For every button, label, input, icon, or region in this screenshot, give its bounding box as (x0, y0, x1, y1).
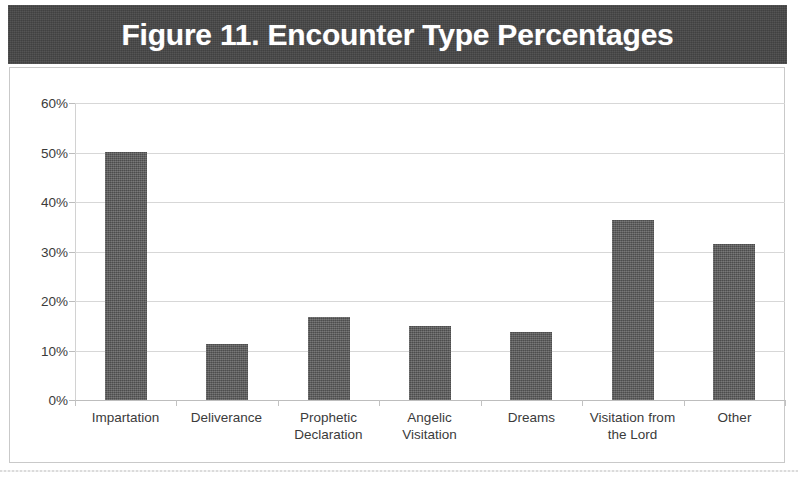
x-axis-tick-label: Impartation (75, 409, 176, 426)
x-axis-tick-label: AngelicVisitation (379, 409, 480, 443)
scan-edge (0, 470, 798, 472)
x-axis-label-line: Other (684, 409, 785, 426)
x-axis-label-line: Visitation from (582, 409, 683, 426)
x-axis-label-line: Impartation (75, 409, 176, 426)
x-axis-label-line: Prophetic (278, 409, 379, 426)
x-axis-tick-label: Dreams (481, 409, 582, 426)
x-axis-label-line: Dreams (481, 409, 582, 426)
figure-container: Figure 11. Encounter Type Percentages 0%… (0, 0, 798, 479)
x-axis-label-line: Declaration (278, 426, 379, 443)
x-axis-tick-label: PropheticDeclaration (278, 409, 379, 443)
x-axis-label-line: the Lord (582, 426, 683, 443)
x-axis-tick-label: Deliverance (176, 409, 277, 426)
x-axis-label-line: Visitation (379, 426, 480, 443)
x-axis-label-line: Angelic (379, 409, 480, 426)
x-axis-tick-label: Visitation fromthe Lord (582, 409, 683, 443)
x-axis-tick-label: Other (684, 409, 785, 426)
x-axis-labels: ImpartationDeliverancePropheticDeclarati… (0, 0, 798, 479)
x-axis-label-line: Deliverance (176, 409, 277, 426)
